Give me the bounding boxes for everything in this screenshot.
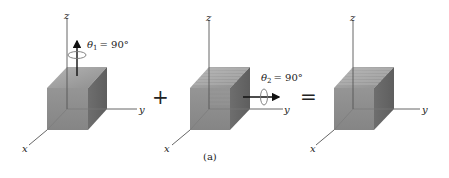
theta2-label: θ2= 90° xyxy=(261,72,303,85)
panel-result: z y x xyxy=(310,12,428,154)
cube-1 xyxy=(47,67,107,130)
x-axis xyxy=(316,130,334,145)
panel-rotation-1: z y x θ1= 90° xyxy=(22,10,145,154)
z-axis-label: z xyxy=(205,12,212,23)
cube-3 xyxy=(334,67,394,130)
rotation-diagram: z y x θ1= 90° + xyxy=(0,0,449,178)
x-axis xyxy=(172,130,190,145)
z-axis-label: z xyxy=(63,10,70,21)
figure-caption: (a) xyxy=(203,151,217,162)
cube-2 xyxy=(190,67,250,130)
x-axis xyxy=(29,130,47,145)
x-axis-label: x xyxy=(164,143,170,154)
z-axis-label: z xyxy=(349,12,356,23)
theta1-label: θ1= 90° xyxy=(87,39,129,52)
panel-rotation-2: z y x θ2= 90° (a) xyxy=(164,12,303,162)
plus-operator: + xyxy=(152,85,169,109)
y-axis-label: y xyxy=(138,104,145,115)
equals-operator: = xyxy=(300,85,317,109)
x-axis-label: x xyxy=(310,143,316,154)
x-axis-label: x xyxy=(22,143,28,154)
y-axis-label: y xyxy=(283,104,290,115)
y-axis-label: y xyxy=(421,104,428,115)
